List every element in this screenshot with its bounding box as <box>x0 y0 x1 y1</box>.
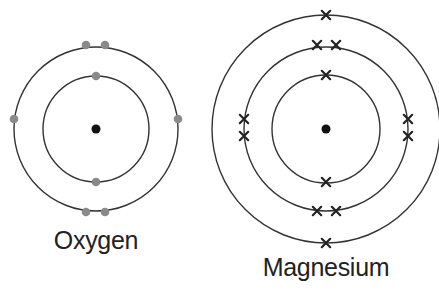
magnesium-label: Magnesium <box>263 253 390 282</box>
electron-dot-icon <box>101 41 110 50</box>
electron-dot-icon <box>174 115 183 124</box>
electron-dot-icon <box>82 41 91 50</box>
electron-cross-icon <box>322 178 330 186</box>
electron-dot-icon <box>101 208 110 217</box>
nucleus-icon <box>92 125 101 134</box>
oxygen-atom <box>10 41 183 217</box>
electron-dot-icon <box>92 178 101 187</box>
electron-dot-icon <box>82 208 91 217</box>
electron-dot-icon <box>10 115 19 124</box>
oxygen-label: Oxygen <box>54 226 138 255</box>
electron-dot-icon <box>92 72 101 81</box>
nucleus-icon <box>322 125 331 134</box>
magnesium-atom <box>212 11 439 247</box>
